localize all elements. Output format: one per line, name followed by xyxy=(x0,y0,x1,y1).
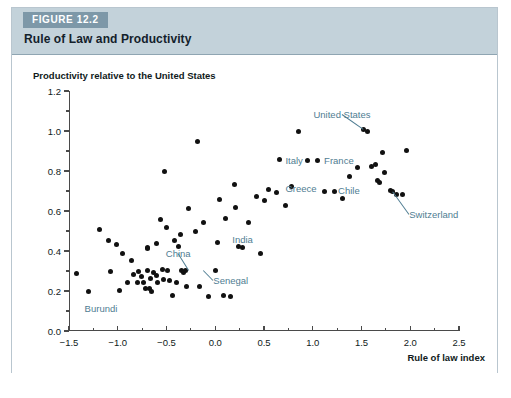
figure-number-label: FIGURE 12.2 xyxy=(32,15,99,25)
data-point xyxy=(197,284,202,289)
data-point xyxy=(296,129,301,134)
annotation-leader-line xyxy=(203,270,213,281)
x-tick-major xyxy=(410,326,411,331)
data-point xyxy=(154,273,159,278)
data-point xyxy=(135,280,140,285)
x-tick-minor xyxy=(239,328,240,331)
data-point xyxy=(223,216,228,221)
x-tick-label: 0.0 xyxy=(209,337,222,348)
data-point xyxy=(254,194,259,199)
x-axis-title: Rule of law index xyxy=(407,352,485,363)
data-point xyxy=(170,293,175,298)
data-point xyxy=(193,229,198,234)
data-point xyxy=(215,240,220,245)
data-point xyxy=(161,277,166,282)
y-tick-major xyxy=(64,290,69,291)
annotation-label: Chile xyxy=(338,185,360,196)
y-tick-minor xyxy=(66,110,69,111)
y-tick-major xyxy=(64,90,69,91)
y-tick-minor xyxy=(66,270,69,271)
y-tick-major xyxy=(64,250,69,251)
x-tick-label: −0.5 xyxy=(157,337,176,348)
data-point xyxy=(155,280,160,285)
data-point xyxy=(274,190,279,195)
x-tick-minor xyxy=(337,328,338,331)
data-point xyxy=(355,165,360,170)
data-point xyxy=(167,278,172,283)
data-point xyxy=(145,268,150,273)
data-point xyxy=(217,197,222,202)
y-tick-minor xyxy=(66,190,69,191)
data-point xyxy=(347,174,352,179)
data-point xyxy=(373,162,378,167)
data-point xyxy=(322,189,327,194)
data-point xyxy=(228,294,233,299)
y-tick-major xyxy=(64,170,69,171)
data-point xyxy=(154,241,159,246)
data-point xyxy=(206,294,211,299)
data-point xyxy=(145,246,150,251)
x-tick-label: 0.5 xyxy=(257,337,270,348)
data-point xyxy=(283,203,288,208)
data-point xyxy=(233,205,238,210)
x-tick-label: −1.5 xyxy=(60,337,79,348)
data-point xyxy=(246,220,251,225)
data-point xyxy=(184,284,189,289)
x-tick-label: 2.5 xyxy=(452,337,465,348)
data-point xyxy=(158,217,163,222)
data-point xyxy=(232,182,237,187)
data-point xyxy=(277,157,282,162)
figure-header: FIGURE 12.2 Rule of Law and Productivity xyxy=(12,8,497,55)
y-tick-minor xyxy=(66,310,69,311)
y-tick-minor xyxy=(66,230,69,231)
data-point xyxy=(141,280,146,285)
data-point xyxy=(178,232,183,237)
y-tick-label: 0.2 xyxy=(48,286,61,297)
data-point xyxy=(162,169,167,174)
y-tick-label: 0.8 xyxy=(48,166,61,177)
x-tick-minor xyxy=(288,328,289,331)
data-point xyxy=(117,288,122,293)
x-tick-label: 1.5 xyxy=(355,337,368,348)
data-point xyxy=(114,242,119,247)
data-point xyxy=(195,139,200,144)
data-point xyxy=(106,238,111,243)
data-point xyxy=(213,268,218,273)
data-point xyxy=(86,289,91,294)
data-point xyxy=(240,245,245,250)
data-point xyxy=(201,220,206,225)
data-point xyxy=(148,276,153,281)
y-axis-title: Productivity relative to the United Stat… xyxy=(33,70,216,81)
annotation-label: Burundi xyxy=(85,303,118,314)
x-tick-major xyxy=(68,326,69,331)
annotation-label: China xyxy=(166,248,191,259)
data-point xyxy=(315,158,320,163)
data-point xyxy=(266,187,271,192)
annotation-label: Italy xyxy=(285,155,302,166)
data-point xyxy=(74,271,79,276)
x-tick-major xyxy=(263,326,264,331)
data-point xyxy=(377,180,382,185)
x-tick-minor xyxy=(190,328,191,331)
data-point xyxy=(149,289,154,294)
data-point xyxy=(172,238,177,243)
data-point xyxy=(131,272,136,277)
x-tick-label: 1.0 xyxy=(306,337,319,348)
annotation-label: Switzerland xyxy=(409,209,458,220)
data-point xyxy=(139,274,144,279)
chart-panel: Productivity relative to the United Stat… xyxy=(12,55,497,373)
data-point xyxy=(174,280,179,285)
data-point xyxy=(365,129,370,134)
x-tick-major xyxy=(312,326,313,331)
annotation-label: Senegal xyxy=(213,275,248,286)
annotation-label: France xyxy=(324,155,354,166)
data-point xyxy=(380,150,385,155)
x-tick-label: −1.0 xyxy=(108,337,127,348)
x-tick-major xyxy=(166,326,167,331)
data-point xyxy=(129,258,134,263)
data-point xyxy=(332,189,337,194)
x-tick-major xyxy=(361,326,362,331)
annotation-label: United States xyxy=(313,109,370,120)
y-tick-label: 0.6 xyxy=(48,206,61,217)
data-point xyxy=(340,196,345,201)
